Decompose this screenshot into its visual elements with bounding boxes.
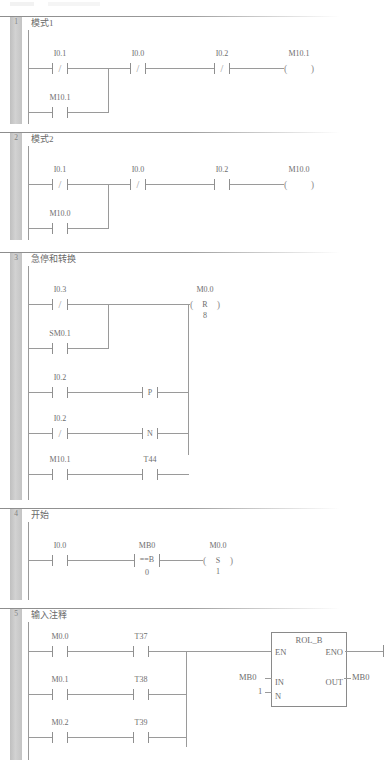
function-block-name: ROL_B [272, 635, 346, 646]
contact-i02[interactable] [52, 387, 68, 398]
nc-slash-icon: / [133, 178, 143, 191]
nc-slash-icon: / [55, 427, 65, 440]
coil-inner: R [196, 298, 214, 311]
n-edge-icon: N [143, 427, 157, 440]
network-gutter [10, 609, 22, 760]
power-rail [28, 146, 29, 240]
wire [29, 651, 52, 652]
wire [68, 228, 109, 229]
wire [68, 651, 133, 652]
wire [160, 560, 203, 561]
network-number: 4 [10, 509, 22, 519]
contact-i02[interactable] [214, 179, 230, 190]
contact-label: M0.1 [42, 675, 78, 685]
network-number: 1 [10, 17, 22, 27]
network-gutter [10, 17, 22, 124]
wire [149, 694, 187, 695]
nc-slash-icon: / [55, 298, 65, 311]
pin-n: N [275, 691, 281, 702]
wire [68, 184, 130, 185]
nc-slash-icon: / [217, 62, 227, 75]
contact-m02[interactable] [52, 732, 68, 743]
wire [230, 184, 284, 185]
wire [68, 68, 130, 69]
contact-label: I0.2 [42, 414, 78, 424]
contact-m101[interactable] [52, 469, 68, 480]
contact-t39[interactable] [133, 732, 149, 743]
toolbar-ghost-strip [10, 2, 34, 6]
contact-t37[interactable] [133, 646, 149, 657]
network-2[interactable]: 2 模式2 / I0.1 / I0.0 I0.2 () M10.0 [0, 132, 390, 240]
contact-m01[interactable] [52, 689, 68, 700]
coil-m101[interactable]: () [284, 62, 314, 75]
ladder-logic-editor[interactable]: 1 模式1 / I0.1 / I0.0 / I0.2 () M10.1 [0, 0, 390, 760]
coil-m00-reset[interactable]: () R [190, 298, 220, 311]
branch-wire [108, 68, 109, 113]
wire [68, 694, 133, 695]
wire [158, 392, 189, 393]
network-3[interactable]: 3 急停和转换 / I0.3 () R M0.0 8 SM0.1 [0, 252, 390, 500]
compare-label: MB0 [129, 541, 165, 551]
contact-i01[interactable]: / [52, 63, 68, 74]
network-title: 输入注释 [31, 609, 67, 621]
contact-i00[interactable] [52, 555, 68, 566]
wire [29, 474, 52, 475]
contact-t38[interactable] [133, 689, 149, 700]
power-rail [28, 30, 29, 124]
coil-label: M10.0 [281, 165, 317, 175]
network-title: 模式1 [31, 17, 54, 29]
p-edge-icon: P [143, 386, 157, 399]
contact-sm01[interactable] [52, 343, 68, 354]
wire [29, 560, 52, 561]
wire [29, 348, 52, 349]
network-gutter [10, 509, 22, 600]
wire [68, 304, 190, 305]
nc-slash-icon: / [55, 62, 65, 75]
pin-en: EN [275, 647, 286, 658]
network-number: 5 [10, 609, 22, 619]
contact-label: I0.0 [120, 165, 156, 175]
contact-i02-nc[interactable]: / [52, 428, 68, 439]
power-rail [28, 622, 29, 760]
contact-i00[interactable]: / [130, 63, 146, 74]
toolbar-ghost-strip-2 [48, 2, 100, 6]
contact-i02[interactable]: / [214, 63, 230, 74]
contact-i00[interactable]: / [130, 179, 146, 190]
wire [68, 433, 142, 434]
compare-operand: 0 [129, 568, 165, 578]
coil-label: M0.0 [187, 285, 223, 295]
network-4[interactable]: 4 开始 I0.0 ==B MB0 0 () S M0.0 1 [0, 508, 390, 600]
pin-in: IN [275, 677, 284, 688]
contact-negative-edge[interactable]: N [142, 428, 158, 439]
wire [29, 184, 52, 185]
network-5[interactable]: 5 输入注释 M0.0 T37 M0.1 T38 [0, 608, 390, 760]
coil-m00-set[interactable]: () S [203, 554, 233, 567]
power-rail [28, 266, 29, 500]
contact-positive-edge[interactable]: P [142, 387, 158, 398]
wire [68, 392, 142, 393]
wire [68, 474, 142, 475]
wire [29, 304, 52, 305]
network-1[interactable]: 1 模式1 / I0.1 / I0.0 / I0.2 () M10.1 [0, 16, 390, 124]
wire [68, 560, 134, 561]
contact-i01[interactable]: / [52, 179, 68, 190]
contact-m00[interactable] [52, 646, 68, 657]
wire [29, 112, 52, 113]
compare-contact-eqb[interactable]: ==B [134, 554, 160, 567]
pin-stub-n [265, 692, 272, 693]
pin-arg-n: 1 [258, 686, 262, 697]
network-gutter [10, 253, 22, 500]
contact-i03[interactable]: / [52, 299, 68, 310]
wire [68, 737, 133, 738]
wire [29, 737, 52, 738]
wire [29, 433, 52, 434]
contact-m100[interactable] [52, 223, 68, 234]
contact-m101[interactable] [52, 107, 68, 118]
contact-label: I0.3 [42, 285, 78, 295]
contact-t44[interactable] [142, 469, 158, 480]
contact-label: T38 [123, 675, 159, 685]
function-block-rol-b[interactable]: ROL_B EN ENO IN OUT N [271, 632, 347, 707]
network-number: 3 [10, 253, 22, 263]
wire [68, 348, 109, 349]
coil-m100[interactable]: () [284, 178, 314, 191]
